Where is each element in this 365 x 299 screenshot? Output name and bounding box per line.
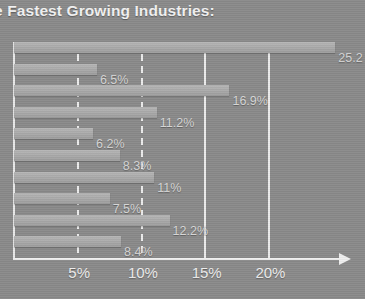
- gridline-10: [141, 42, 143, 260]
- tick-label-5: 5%: [68, 264, 90, 281]
- bar-value-label: 25.2: [338, 52, 362, 65]
- bar-value-label: 12.2%: [173, 225, 208, 238]
- tick-label-10: 10%: [128, 264, 158, 281]
- bar: [14, 150, 120, 161]
- chart-plot-area: 25.26.5%16.9%11.2%6.2%8.3%11%7.5%12.2%8.…: [0, 40, 365, 262]
- bar: [14, 42, 335, 53]
- gridline-20: [268, 42, 270, 260]
- tick-label-15: 15%: [192, 264, 222, 281]
- x-axis-arrow-icon: [339, 253, 351, 265]
- bar: [14, 172, 154, 183]
- bar: [14, 64, 97, 75]
- bar: [14, 193, 110, 204]
- bar-value-label: 16.9%: [232, 95, 267, 108]
- bar: [14, 128, 93, 139]
- chart-title: e Fastest Growing Industries:: [0, 2, 215, 20]
- x-axis-line: [13, 258, 343, 260]
- bar: [14, 107, 157, 118]
- bar: [14, 215, 170, 226]
- tick-label-20: 20%: [255, 264, 285, 281]
- bar: [14, 85, 229, 96]
- bar-value-label: 11.2%: [160, 117, 195, 130]
- bar-value-label: 11%: [157, 182, 181, 195]
- bar: [14, 236, 121, 247]
